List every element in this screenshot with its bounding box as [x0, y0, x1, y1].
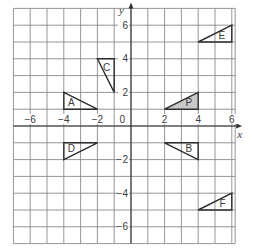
coordinate-grid: −6−4−2246642−2−4−6 ACEPDBF x y 0 [0, 0, 253, 250]
x-tick-label: −4 [58, 114, 70, 125]
origin-label: 0 [119, 114, 125, 125]
triangle-d-label: D [68, 143, 75, 154]
y-axis-label: y [118, 4, 124, 16]
y-tick-label: 6 [122, 20, 128, 31]
triangle-a-label: A [68, 97, 75, 108]
triangle-b-label: B [186, 143, 193, 154]
axes [13, 2, 242, 243]
triangle-c-label: C [103, 62, 110, 73]
triangle-p-label: P [186, 97, 193, 108]
x-tick-label: 4 [195, 114, 201, 125]
y-tick-label: −6 [117, 221, 129, 232]
x-tick-label: −6 [24, 114, 36, 125]
x-tick-label: 2 [162, 114, 168, 125]
x-tick-label: −2 [92, 114, 104, 125]
y-tick-label: −4 [117, 188, 129, 199]
x-tick-label: 6 [229, 114, 235, 125]
y-tick-label: −2 [117, 154, 129, 165]
triangle-e-label: E [218, 30, 225, 41]
y-tick-label: 2 [122, 87, 128, 98]
y-axis-arrow-icon [129, 2, 134, 8]
x-axis-label: x [236, 128, 242, 140]
y-tick-label: 4 [122, 53, 128, 64]
triangle-f-label: F [220, 198, 226, 209]
